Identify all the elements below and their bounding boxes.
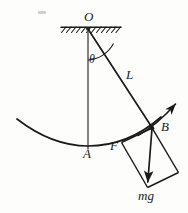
parallelogram-edge-b-f bbox=[122, 128, 153, 142]
physics-diagram-figure: O θ L B A F mg bbox=[0, 0, 188, 213]
label-force-f: F bbox=[110, 139, 118, 152]
label-weight-mg: mg bbox=[138, 189, 154, 202]
ceiling-support bbox=[61, 27, 121, 33]
diagram-canvas bbox=[0, 0, 188, 213]
weight-vector-mg bbox=[148, 129, 152, 183]
parallelogram-edge-mg-p4 bbox=[148, 173, 179, 188]
label-string-length: L bbox=[126, 68, 133, 81]
label-point-a: A bbox=[83, 147, 91, 160]
label-angle-theta: θ bbox=[89, 53, 95, 65]
parallelogram-edge-p4-b bbox=[152, 128, 178, 172]
label-bob-b: B bbox=[161, 120, 169, 133]
curved-track-arc bbox=[17, 117, 161, 146]
label-pivot-o: O bbox=[84, 10, 93, 23]
parallelogram-edge-f-mg bbox=[122, 143, 148, 188]
string-ob bbox=[88, 29, 153, 129]
